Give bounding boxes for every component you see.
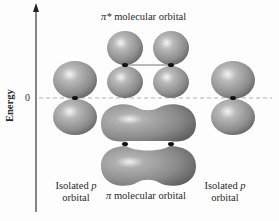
nucleus (168, 63, 174, 67)
pi-label-text: molecular orbital (114, 190, 186, 201)
pi-star-label-text: molecular orbital (114, 11, 186, 22)
isolated-left-line2: orbital (62, 192, 89, 203)
isolated-left-p: p (91, 180, 96, 191)
nucleus (122, 142, 128, 146)
pi-star-symbol: π* (101, 11, 112, 22)
nucleus (72, 96, 78, 100)
pi-symbol: π (106, 190, 111, 201)
isolated-right-p: p (240, 180, 245, 191)
pi-star-label: π* molecular orbital (101, 11, 186, 23)
isolated-p-label-left: Isolated p orbital (54, 180, 98, 204)
zero-tick-label: 0 (25, 92, 30, 103)
nucleus (122, 63, 128, 67)
energy-axis-label: Energy (4, 89, 15, 122)
pi-star-molecular-orbital (107, 31, 189, 98)
isolated-right-line1: Isolated (204, 180, 237, 191)
energy-axis (33, 3, 39, 212)
pi-molecular-orbital (101, 104, 196, 186)
nucleus (168, 142, 174, 146)
arrow-up-icon (33, 3, 39, 12)
pi-label: π molecular orbital (106, 190, 186, 202)
isolated-right-line2: orbital (211, 192, 238, 203)
orbital-diagram: Energy 0 π* molecular orbital Isolated p… (0, 0, 279, 221)
isolated-left-line1: Isolated (55, 180, 88, 191)
isolated-p-label-right: Isolated p orbital (203, 180, 247, 204)
nucleus (230, 96, 236, 100)
